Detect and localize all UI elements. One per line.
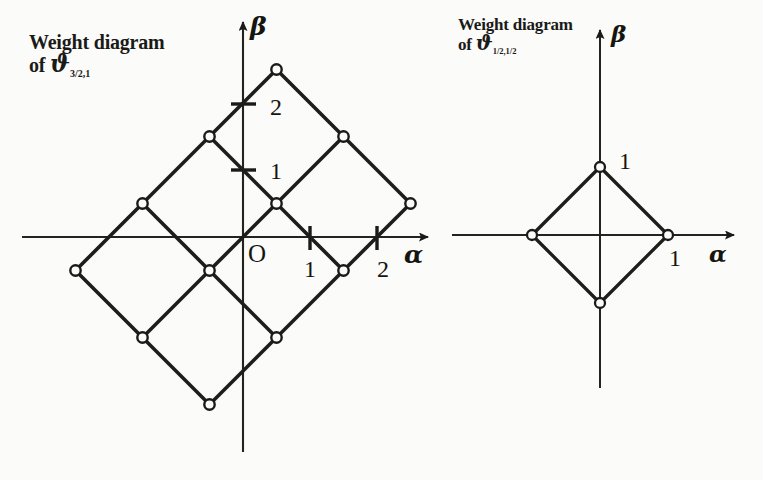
weight-node (595, 162, 605, 172)
weight-node (137, 332, 147, 342)
left-panel-caption: Weight diagram of ϑ3/2,1 (29, 32, 165, 79)
left-caption-subscript: 3/2,1 (70, 68, 90, 79)
left-x-tick-label-2: 2 (377, 256, 389, 283)
lattice-edge (600, 235, 668, 303)
weight-node (338, 265, 348, 275)
left-origin-label: O (248, 240, 266, 268)
weight-node (204, 265, 214, 275)
weight-node (271, 198, 281, 208)
weight-node (271, 64, 281, 74)
left-caption-symbol: ϑ (50, 50, 70, 78)
lattice-edge (143, 271, 210, 338)
weight-node (204, 131, 214, 141)
left-x-tick-label-1: 1 (304, 256, 316, 283)
left-caption-prefix: of (29, 54, 50, 76)
weight-node (70, 265, 80, 275)
right-x-tick-label-1: 1 (669, 245, 681, 272)
lattice-edge (344, 137, 411, 204)
right-caption-line2: of ϑ1/2,1/2 (458, 33, 573, 55)
left-axis-x-label: α (404, 240, 423, 269)
right-caption-symbol: ϑ (476, 31, 493, 55)
lattice-edge (143, 137, 210, 204)
weight-node (663, 230, 673, 240)
right-caption-prefix: of (458, 35, 476, 54)
left-y-tick-label-2: 2 (270, 94, 282, 121)
right-axis-y-label: β (611, 20, 626, 47)
weight-node (137, 198, 147, 208)
lattice-edge (277, 70, 344, 137)
lattice-edge (532, 235, 600, 303)
lattice-edge (76, 271, 143, 338)
lattice-edge (532, 167, 600, 235)
left-caption-line2: of ϑ3/2,1 (29, 52, 165, 79)
left-y-tick-label-1: 1 (270, 158, 282, 185)
right-panel-caption: Weight diagram of ϑ1/2,1/2 (458, 16, 573, 56)
weight-node (595, 298, 605, 308)
right-caption-subscript: 1/2,1/2 (493, 46, 517, 56)
weight-node (271, 332, 281, 342)
left-axis-y-label: β (250, 12, 267, 41)
weight-diagram-figure: Weight diagram of ϑ3/2,1 Weight diagram … (0, 0, 763, 480)
weight-node (405, 198, 415, 208)
weight-node (204, 399, 214, 409)
lattice-edge (277, 137, 344, 204)
right-y-tick-label-1: 1 (619, 148, 631, 175)
right-panel-axes (452, 30, 734, 388)
lattice-edge (600, 167, 668, 235)
weight-node (338, 131, 348, 141)
weight-node (527, 230, 537, 240)
lattice-edge (143, 338, 210, 405)
left-caption-line1: Weight diagram (29, 32, 165, 52)
right-axis-x-label: α (709, 240, 727, 267)
